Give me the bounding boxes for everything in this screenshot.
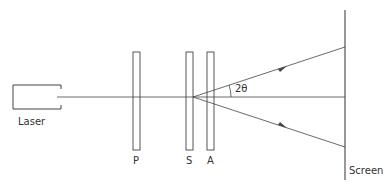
upper-ray-arrow-icon (278, 66, 287, 72)
sample-plate (186, 52, 193, 150)
screen-label: Screen (349, 165, 383, 176)
upper-scattered-ray (193, 47, 345, 97)
laser-source (13, 85, 61, 109)
analyzer-plate (207, 52, 214, 150)
polarizer-label: P (133, 155, 139, 166)
optical-setup-diagram: Laser P S A 2θ Screen (0, 0, 391, 191)
diagram-canvas: Laser P S A 2θ Screen (0, 0, 391, 191)
analyzer-label: A (207, 155, 214, 166)
sample-label: S (186, 155, 192, 166)
polarizer-plate (133, 52, 140, 150)
angle-arc (229, 85, 231, 97)
angle-label: 2θ (235, 83, 247, 94)
lower-ray-arrow-icon (278, 122, 287, 128)
lower-scattered-ray (193, 97, 345, 147)
laser-label: Laser (18, 116, 46, 127)
